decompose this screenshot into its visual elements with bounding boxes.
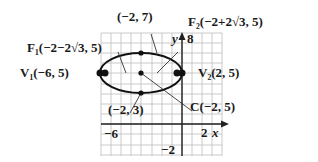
point-f2: [174, 70, 181, 77]
tick-y-8: 8: [187, 31, 194, 46]
y-axis-label: y: [170, 31, 178, 46]
label-focus-f1: F₁(−2−2√3, 5): [27, 40, 102, 55]
tick-y-neg2: −2: [161, 142, 175, 157]
x-axis-arrow-icon: [221, 121, 229, 128]
label-vertex-v1: V₁(−6, 5): [20, 65, 69, 80]
x-axis-label: x: [211, 125, 219, 140]
tick-x-neg6: −6: [104, 126, 118, 141]
label-bottom-vertex: (−2, 3): [108, 102, 144, 117]
label-focus-f2: F₂(−2+2√3, 5): [188, 14, 263, 29]
label-vertex-v2: V₂(2, 5): [198, 65, 239, 80]
point-bottom: [138, 90, 143, 95]
tick-x-2: 2: [201, 125, 208, 140]
point-top: [138, 50, 143, 55]
label-center: C(−2, 5): [190, 99, 235, 114]
point-f1: [102, 70, 109, 77]
label-top-vertex: (−2, 7): [117, 9, 153, 24]
point-center: [138, 70, 143, 75]
ellipse-diagram: (−2, 7) F₁(−2−2√3, 5) F₂(−2+2√3, 5) V₁(−…: [0, 0, 318, 162]
